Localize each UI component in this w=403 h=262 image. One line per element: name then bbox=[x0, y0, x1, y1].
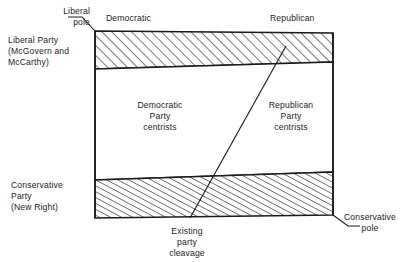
label-republican-party-centrists: Republican Party centrists bbox=[251, 100, 331, 133]
label-conservative-pole: Conservative pole bbox=[340, 212, 400, 234]
label-liberal-pole: Liberal pole bbox=[16, 6, 90, 28]
diagram-canvas: Liberal pole Liberal Party (McGovern and… bbox=[0, 0, 403, 262]
label-democratic-party-centrists: Democratic Party centrists bbox=[118, 100, 202, 133]
label-conservative-party: Conservative Party (New Right) bbox=[11, 180, 97, 213]
label-democratic-axis: Democratic bbox=[106, 13, 168, 24]
label-republican-axis: Republican bbox=[270, 13, 332, 24]
label-existing-party-cleavage: Existing party cleavage bbox=[149, 226, 225, 259]
label-liberal-party: Liberal Party (McGovern and McCarthy) bbox=[8, 35, 94, 68]
